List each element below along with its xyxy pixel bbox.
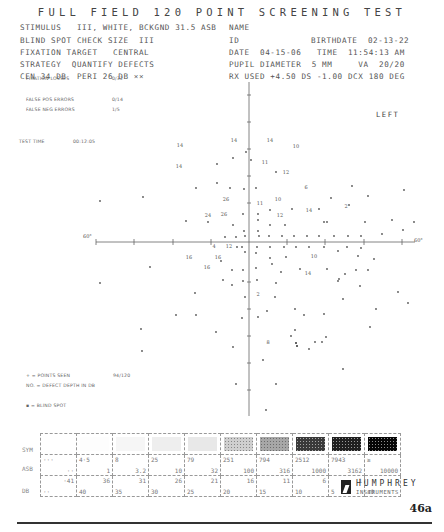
seen-point <box>266 310 268 312</box>
seen-point <box>216 182 218 184</box>
seen-point <box>285 256 287 258</box>
seen-point <box>257 213 259 215</box>
page-number: 46a <box>410 502 432 515</box>
defect-depth-value: 16 <box>186 254 192 260</box>
asb-lower: 100 <box>243 467 254 474</box>
defect-depth-value: 14 <box>267 137 273 143</box>
defect-depth-value: 26 <box>221 211 227 217</box>
blind-spot-marker <box>296 345 298 347</box>
asb-lower: 3162 <box>348 467 362 474</box>
seen-point <box>407 302 409 304</box>
seen-point <box>245 151 247 153</box>
asb-upper: 2512 <box>295 456 309 463</box>
blind-spot-marker <box>295 342 297 344</box>
seen-point <box>291 208 293 210</box>
seen-point <box>229 187 231 189</box>
seen-point <box>256 279 258 281</box>
seen-point <box>333 235 335 237</box>
seen-point <box>323 246 325 248</box>
grayscale-swatch <box>296 437 325 451</box>
db-lower: 10 <box>295 488 302 495</box>
seen-point <box>242 280 244 282</box>
seen-point <box>369 326 371 328</box>
seen-point <box>250 159 252 161</box>
db-lower: 5 <box>331 488 335 495</box>
symbol-cell <box>257 434 293 455</box>
seen-point <box>258 235 260 237</box>
seen-point <box>275 282 277 284</box>
defect-depth-value: 11 <box>257 200 263 206</box>
asb-row: ·····4·5183.2251079322511007943162512100… <box>41 455 401 476</box>
seen-point <box>337 280 339 282</box>
db-upper: ·41 <box>63 477 74 484</box>
seen-point <box>275 171 277 173</box>
seen-point <box>367 269 369 271</box>
visual-field-plot: 60° 60° 14141410141112626111024261214241… <box>0 0 444 420</box>
grayscale-swatch <box>224 437 253 451</box>
asb-lower: 1 <box>106 467 110 474</box>
seen-point <box>323 313 325 315</box>
asb-lower: 10 <box>175 467 182 474</box>
defect-depth-value: 10 <box>311 253 317 259</box>
asb-upper: 79 <box>187 456 194 463</box>
seen-point <box>357 255 359 257</box>
asb-cell: 2510 <box>149 455 185 476</box>
grayscale-swatch <box>44 437 73 451</box>
seen-point <box>346 246 348 248</box>
seen-point <box>271 263 273 265</box>
seen-point <box>257 219 259 221</box>
db-upper: 16 <box>247 477 254 484</box>
seen-point <box>175 314 177 316</box>
db-cell: 3640 <box>77 476 113 497</box>
asb-upper: ··· <box>43 456 54 463</box>
asb-upper: 7943 <box>331 456 345 463</box>
asb-cell: 79433162 <box>329 455 365 476</box>
asb-lower: 3.2 <box>135 467 146 474</box>
seen-point <box>367 195 369 197</box>
seen-point <box>235 236 237 238</box>
seen-point <box>255 252 257 254</box>
points-seen-value: 94/120 <box>113 373 130 378</box>
symbol-cell <box>185 434 221 455</box>
points-seen-label: + = POINTS SEEN <box>26 373 70 378</box>
seen-point <box>293 235 295 237</box>
grayscale-swatch <box>80 437 109 451</box>
defect-depth-value: 10 <box>293 143 299 149</box>
defect-depth-value: 8 <box>266 339 269 345</box>
db-lower: 25 <box>187 488 194 495</box>
db-upper: 21 <box>211 477 218 484</box>
divider-rule <box>17 522 432 524</box>
defect-depth-value: 12 <box>277 212 283 218</box>
defect-depth-value: 12 <box>226 243 232 249</box>
seen-point <box>243 230 245 232</box>
symbol-cell <box>221 434 257 455</box>
defect-depth-value: 4 <box>212 243 215 249</box>
symbol-cell <box>77 434 113 455</box>
seen-point <box>241 246 243 248</box>
seen-point <box>269 209 271 211</box>
db-lower: 35 <box>115 488 122 495</box>
brand-name: HUMPHREY <box>356 479 419 488</box>
asb-upper: 251 <box>223 456 234 463</box>
axis-label-right: 60° <box>414 237 423 243</box>
seen-point <box>325 336 327 338</box>
seen-point <box>242 269 244 271</box>
seen-point <box>373 258 375 260</box>
seen-point <box>338 278 340 280</box>
seen-point <box>299 268 301 270</box>
seen-point <box>149 266 151 268</box>
db-upper: 31 <box>139 477 146 484</box>
seen-point <box>232 346 234 348</box>
axes <box>96 82 415 416</box>
db-cell: 1115 <box>257 476 293 497</box>
asb-cell: 7932 <box>185 455 221 476</box>
seen-point <box>265 409 267 411</box>
seen-point <box>397 291 399 293</box>
seen-point <box>243 188 245 190</box>
asb-upper: 8 <box>115 456 119 463</box>
asb-upper: 25 <box>151 456 158 463</box>
grayscale-swatch <box>116 437 145 451</box>
seen-point <box>337 250 339 252</box>
seen-point <box>99 200 101 202</box>
defect-depth-legend: NO. = DEFECT DEPTH IN DB <box>26 383 95 388</box>
